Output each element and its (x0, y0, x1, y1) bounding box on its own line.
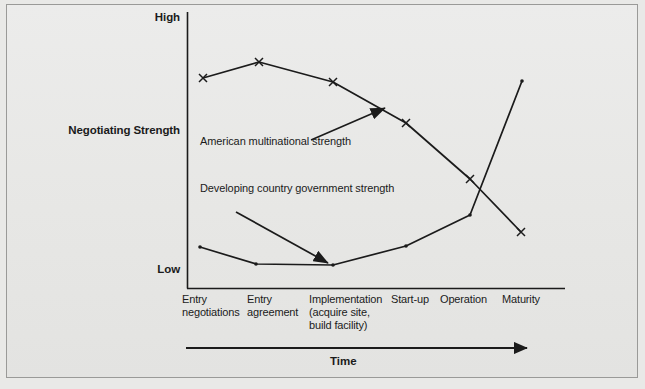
government-annotation-arrow (236, 212, 328, 263)
government-markers (198, 79, 524, 267)
american-multinational-annotation-label: American multinational strength (200, 135, 351, 148)
x-tick-label-maturity: Maturity (502, 293, 540, 306)
government-line (200, 81, 522, 265)
x-tick-label-entry-agreement: Entry agreement (247, 293, 298, 319)
x-axis-title: Time (330, 355, 357, 369)
series-developing-country-government (198, 79, 524, 267)
x-tick-label-entry-negotiations: Entry negotiations (182, 293, 240, 319)
y-axis-low-label: Low (157, 263, 180, 277)
axes-group (187, 12, 565, 289)
x-tick-label-operation: Operation (440, 293, 487, 306)
y-axis-title: Negotiating Strength (68, 124, 180, 138)
y-axis-high-label: High (155, 11, 180, 25)
developing-country-government-annotation-label: Developing country government strength (200, 182, 394, 195)
x-tick-label-implementation: Implementation (acquire site, build faci… (309, 293, 382, 332)
figure-container: High Negotiating Strength Low American m… (0, 0, 645, 389)
x-tick-label-start-up: Start-up (391, 293, 429, 306)
